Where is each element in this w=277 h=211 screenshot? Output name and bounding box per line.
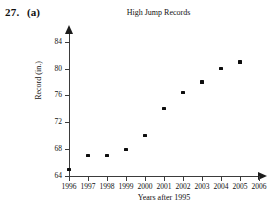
x-tick-mark xyxy=(259,176,260,181)
y-tick-label-text: 84 xyxy=(40,38,62,46)
y-tick-mark xyxy=(65,69,70,70)
data-point xyxy=(105,154,108,157)
y-tick-label-text: 68 xyxy=(40,145,62,153)
x-tick-label: 2006 xyxy=(244,182,274,191)
x-tick-mark xyxy=(88,176,89,181)
x-axis-title: Years after 1995 xyxy=(69,193,259,202)
y-axis-line xyxy=(69,33,70,176)
x-tick-mark xyxy=(202,176,203,181)
y-tick-label: 80 xyxy=(40,65,62,73)
y-tick-mark xyxy=(65,122,70,123)
data-point xyxy=(124,148,127,151)
x-tick-mark xyxy=(69,176,70,181)
scatter-plot-figure: 27. (a) High Jump Records 646872768084 1… xyxy=(0,0,277,211)
x-tick-mark xyxy=(183,176,184,181)
x-tick-mark xyxy=(221,176,222,181)
data-point xyxy=(86,154,89,157)
y-tick-label: 84 xyxy=(40,38,62,46)
data-point xyxy=(162,107,165,110)
y-axis-arrow-icon xyxy=(65,25,73,34)
y-tick-mark xyxy=(65,95,70,96)
y-tick-label: 68 xyxy=(40,145,62,153)
x-tick-mark xyxy=(145,176,146,181)
data-point xyxy=(200,80,203,83)
y-tick-label: 64 xyxy=(40,172,62,180)
y-tick-label-text: 80 xyxy=(40,65,62,73)
x-tick-mark xyxy=(107,176,108,181)
y-tick-label-text: 72 xyxy=(40,118,62,126)
x-tick-mark xyxy=(240,176,241,181)
data-point xyxy=(238,60,241,63)
data-point xyxy=(143,134,146,137)
x-tick-mark xyxy=(164,176,165,181)
data-point xyxy=(219,67,222,70)
y-tick-label-text: 76 xyxy=(40,91,62,99)
y-tick-mark xyxy=(65,42,70,43)
y-axis-title: Record (in.) xyxy=(34,41,43,121)
y-tick-label: 72 xyxy=(40,118,62,126)
y-tick-label: 76 xyxy=(40,91,62,99)
data-point xyxy=(181,91,184,94)
y-tick-mark xyxy=(65,149,70,150)
y-tick-label-text: 64 xyxy=(40,172,62,180)
x-tick-mark xyxy=(126,176,127,181)
chart-title: High Jump Records xyxy=(0,8,277,17)
data-point xyxy=(67,168,70,171)
